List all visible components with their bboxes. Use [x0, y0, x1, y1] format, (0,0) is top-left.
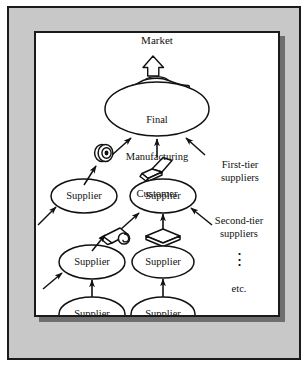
vertical-ellipsis-icon: ⋮ [212, 255, 266, 264]
etc-annotation: etc. [212, 283, 266, 296]
flow-arrow-carpet-to-tier1right [120, 213, 139, 230]
figure-root: Market Final Manufacturing Customer Supp… [0, 0, 308, 367]
flow-arrow-external-to-customer [186, 138, 205, 155]
diagram-panel: Market Final Manufacturing Customer Supp… [34, 31, 280, 317]
second-tier-annotation: Second-tier suppliers [199, 215, 279, 240]
flow-arrow-external-to-tier1left [38, 207, 56, 225]
tier3-left-ellipse [59, 297, 125, 315]
tier2-right-ellipse [132, 246, 194, 278]
coil-roll-icon [95, 145, 113, 162]
tier3-right-ellipse [131, 297, 195, 315]
hollow-up-arrow-icon [143, 56, 164, 76]
first-tier-annotation: First-tier suppliers [201, 159, 279, 184]
car-seat-icon [140, 158, 172, 182]
flow-arrow-external-to-tier2left [43, 273, 62, 289]
final-customer-ellipse [105, 82, 209, 136]
tier1-right-ellipse [130, 179, 196, 213]
cube-box-icon [146, 229, 180, 247]
outer-frame: Market Final Manufacturing Customer Supp… [7, 6, 301, 360]
flow-arrow-coil-to-customer [112, 138, 131, 155]
